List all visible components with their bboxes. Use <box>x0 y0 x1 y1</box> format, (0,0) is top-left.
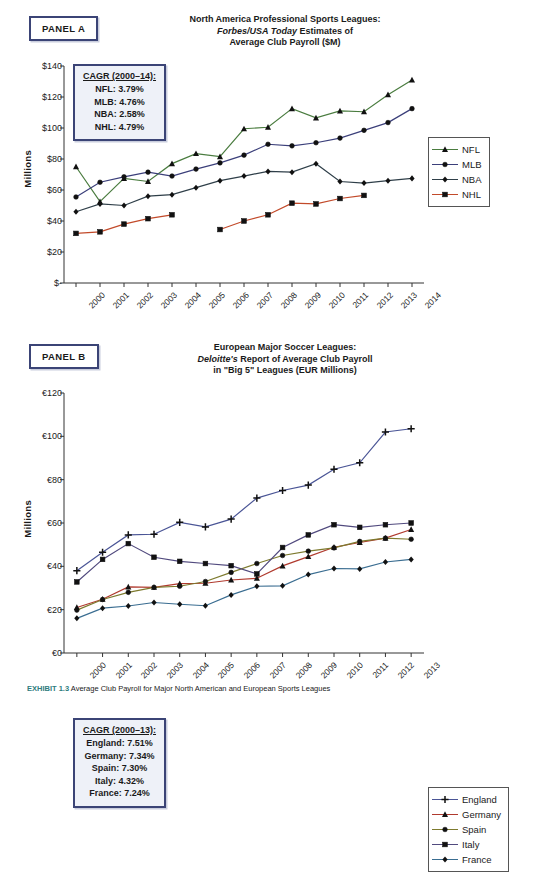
data-point-france-2003 <box>151 599 156 605</box>
cagr-row: Spain: 7.30% <box>83 762 156 775</box>
data-point-england-2009 <box>305 482 312 489</box>
data-point-spain-2009 <box>306 549 311 554</box>
data-point-france-2005 <box>203 603 208 609</box>
x-tick-label: 2002 <box>135 290 155 310</box>
x-tick-label: 2013 <box>422 660 442 680</box>
panel-b-title-line2-rest: Report of Average Club Payroll <box>238 354 373 364</box>
data-point-nhl-2008 <box>266 212 271 217</box>
data-point-france-2000 <box>74 615 79 621</box>
legend-item-nhl[interactable]: NHL <box>432 187 482 202</box>
data-point-nhl-2000 <box>74 231 79 236</box>
legend-item-nba[interactable]: NBA <box>432 172 482 187</box>
legend-marker-circle-icon <box>432 824 458 835</box>
x-tick-label: 2003 <box>159 290 179 310</box>
data-point-nba-2000 <box>73 209 78 215</box>
panel-b-title: European Major Soccer Leagues: Deloitte'… <box>120 342 450 377</box>
data-point-france-2013 <box>409 556 414 562</box>
y-tick-label: €60 <box>47 518 62 528</box>
panel-a-title-line1: North America Professional Sports League… <box>120 14 450 26</box>
panel-a-title-line2-rest: Estimates of <box>297 26 353 36</box>
legend-item-mlb[interactable]: MLB <box>432 157 482 172</box>
data-point-italy-2009 <box>306 533 311 538</box>
series-line-italy <box>77 523 411 582</box>
x-tick-label: 2007 <box>255 290 275 310</box>
data-point-france-2004 <box>177 601 182 607</box>
legend-item-italy[interactable]: Italy <box>432 837 501 852</box>
panel-a-legend: NFLMLBNBANHL <box>428 137 490 207</box>
panel-a-title-line3: Average Club Payroll ($M) <box>120 37 450 49</box>
data-point-italy-2012 <box>383 522 388 527</box>
x-tick-label: 2011 <box>350 290 370 310</box>
y-tick-label: €80 <box>47 475 62 485</box>
data-point-nba-2004 <box>169 192 174 198</box>
legend-label: NFL <box>458 144 480 155</box>
legend-item-france[interactable]: France <box>432 852 501 867</box>
x-tick-label: 2010 <box>345 660 365 680</box>
x-tick-label: 2002 <box>139 660 159 680</box>
data-point-england-2013 <box>408 425 415 432</box>
data-point-spain-2013 <box>409 537 414 542</box>
panel-b-title-source: Deloitte's <box>197 354 237 364</box>
data-point-italy-2007 <box>255 572 260 577</box>
data-point-nba-2012 <box>361 180 366 186</box>
legend-marker-diamond-icon <box>432 174 458 185</box>
data-point-france-2010 <box>331 565 336 571</box>
data-point-italy-2008 <box>280 545 285 550</box>
data-point-mlb-2003 <box>146 170 151 175</box>
data-point-mlb-2013 <box>386 120 391 125</box>
data-point-france-2011 <box>357 566 362 572</box>
data-point-spain-2008 <box>280 553 285 558</box>
data-point-spain-2005 <box>203 579 208 584</box>
data-point-spain-2002 <box>126 590 131 595</box>
panel-a-tag: PANEL A <box>29 16 98 41</box>
data-point-mlb-2001 <box>98 180 103 185</box>
data-point-italy-2005 <box>203 561 208 566</box>
data-point-england-2003 <box>150 531 157 538</box>
panel-a-title-source: Forbes/USA Today <box>217 26 297 36</box>
legend-label: NHL <box>458 189 481 200</box>
panel-a: PANEL A North America Professional Sport… <box>0 0 547 330</box>
panel-b-title-line1: European Major Soccer Leagues: <box>120 342 450 354</box>
data-point-mlb-2012 <box>362 128 367 133</box>
data-point-mlb-2005 <box>194 167 199 172</box>
data-point-nba-2009 <box>289 169 294 175</box>
legend-item-germany[interactable]: Germany <box>432 807 501 822</box>
y-tick-label: $120 <box>42 92 62 102</box>
data-point-nba-2001 <box>97 201 102 207</box>
y-tick-label: €120 <box>42 388 62 398</box>
legend-item-nfl[interactable]: NFL <box>432 142 482 157</box>
data-point-mlb-2006 <box>218 161 223 166</box>
data-point-nba-2003 <box>145 193 150 199</box>
legend-marker-triangle-icon <box>432 809 458 820</box>
panel-a-y-tick-labels: $-$20$40$60$80$100$120$140 <box>22 66 62 283</box>
cagr-row: England: 7.51% <box>83 737 156 750</box>
chart-svg <box>64 393 424 653</box>
data-point-france-2012 <box>383 559 388 565</box>
data-point-nba-2014 <box>409 175 414 181</box>
y-tick-label: $20 <box>47 247 62 257</box>
x-tick-label: 2012 <box>396 660 416 680</box>
x-tick-label: 2001 <box>113 660 133 680</box>
data-point-nfl-2009 <box>289 105 295 111</box>
data-point-italy-2006 <box>229 563 234 568</box>
data-point-france-2007 <box>254 583 259 589</box>
legend-marker-square-icon <box>432 839 458 850</box>
data-point-nba-2002 <box>121 202 126 208</box>
data-point-nhl-2001 <box>98 230 103 235</box>
panel-a-cagr-header: CAGR (2000–14): <box>83 71 156 81</box>
panel-b-x-tick-labels: 2000200120022003200420052006200720082009… <box>64 657 424 701</box>
data-point-nhl-2004 <box>170 212 175 217</box>
panel-b-cagr-header: CAGR (2000–13): <box>83 725 156 735</box>
data-point-england-2005 <box>202 523 209 530</box>
data-point-nba-2007 <box>241 173 246 179</box>
data-point-nhl-2003 <box>146 216 151 221</box>
data-point-nhl-2012 <box>362 193 367 198</box>
legend-item-england[interactable]: England <box>432 792 501 807</box>
data-point-nhl-2011 <box>338 196 343 201</box>
x-tick-label: 2007 <box>267 660 287 680</box>
data-point-france-2002 <box>126 603 131 609</box>
x-tick-label: 2008 <box>293 660 313 680</box>
x-tick-label: 2003 <box>165 660 185 680</box>
data-point-nhl-2002 <box>122 222 127 227</box>
legend-item-spain[interactable]: Spain <box>432 822 501 837</box>
